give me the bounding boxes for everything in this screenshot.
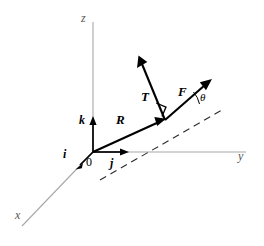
y-axis-label: y <box>238 150 243 162</box>
unit-vector-j-label: j <box>110 157 113 169</box>
unit-vector-k-arrowhead <box>89 116 96 125</box>
origin-label: 0 <box>86 156 92 168</box>
vector-T-label: T <box>141 90 149 103</box>
theta-label: θ <box>200 92 205 103</box>
z-axis-label: z <box>81 12 86 24</box>
unit-vector-i-label: i <box>63 148 66 160</box>
diagram-canvas <box>0 0 264 246</box>
vector-F-label: F <box>178 85 187 98</box>
unit-vector-j-arrowhead <box>120 148 129 155</box>
vector-R-label: R <box>116 113 125 126</box>
x-axis-label: x <box>15 209 20 221</box>
unit-vector-k-label: k <box>79 114 85 126</box>
vector-R-line <box>93 122 159 152</box>
vector-diagram: z y x 0 i j k R T F θ <box>0 0 264 246</box>
